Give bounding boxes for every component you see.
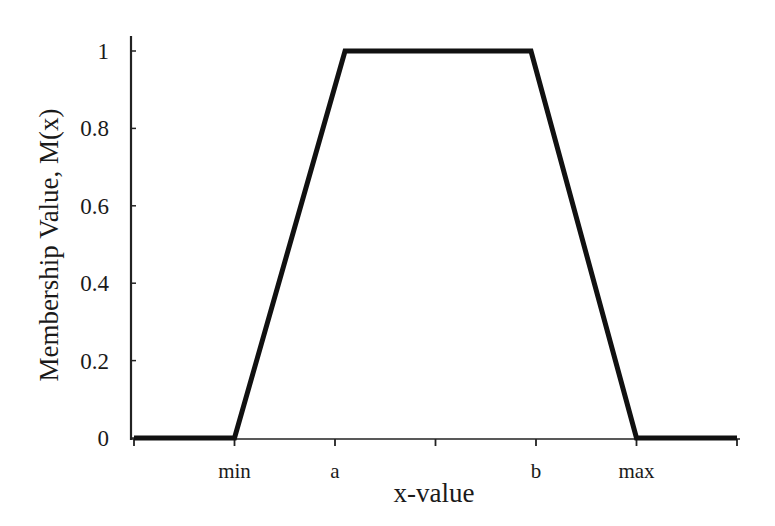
y-axis-title: Membership Value, M(x): [34, 108, 64, 381]
x-ticks: minabmax: [134, 439, 737, 483]
x-tick-label: max: [618, 459, 655, 483]
trapezoidal-membership-chart: 00.20.40.60.81 minabmax x-value Membersh…: [0, 0, 775, 526]
y-tick-label: 0: [98, 426, 110, 451]
y-tick-label: 0.8: [80, 116, 109, 141]
x-tick-label: a: [330, 459, 340, 483]
y-tick-label: 1: [98, 39, 110, 64]
y-tick-label: 0.2: [80, 349, 109, 374]
y-tick-label: 0.4: [80, 271, 109, 296]
membership-function-line: [134, 51, 737, 438]
y-tick-label: 0.6: [80, 194, 109, 219]
x-axis-title: x-value: [394, 478, 475, 508]
axes: [131, 36, 740, 440]
x-tick-label: b: [531, 459, 542, 483]
y-ticks: 00.20.40.60.81: [80, 39, 136, 451]
x-tick-label: min: [218, 459, 251, 483]
